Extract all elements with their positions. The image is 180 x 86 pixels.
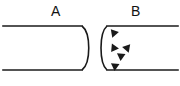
arrowhead-icon-1 (108, 29, 119, 39)
arrowhead-icon-3 (122, 44, 133, 54)
panel-a-tube (3, 26, 89, 70)
figure-container: A B (0, 0, 180, 86)
diagram-canvas (0, 0, 180, 86)
panel-b-meniscus-convex-left (101, 26, 107, 70)
arrowhead-icon-4 (116, 53, 125, 61)
panel-b-arrow-group (108, 29, 133, 71)
panel-label-a: A (51, 4, 60, 18)
panel-label-b: B (131, 4, 140, 18)
arrowhead-icon-2 (108, 43, 119, 54)
panel-a-meniscus-convex-right (82, 26, 89, 70)
